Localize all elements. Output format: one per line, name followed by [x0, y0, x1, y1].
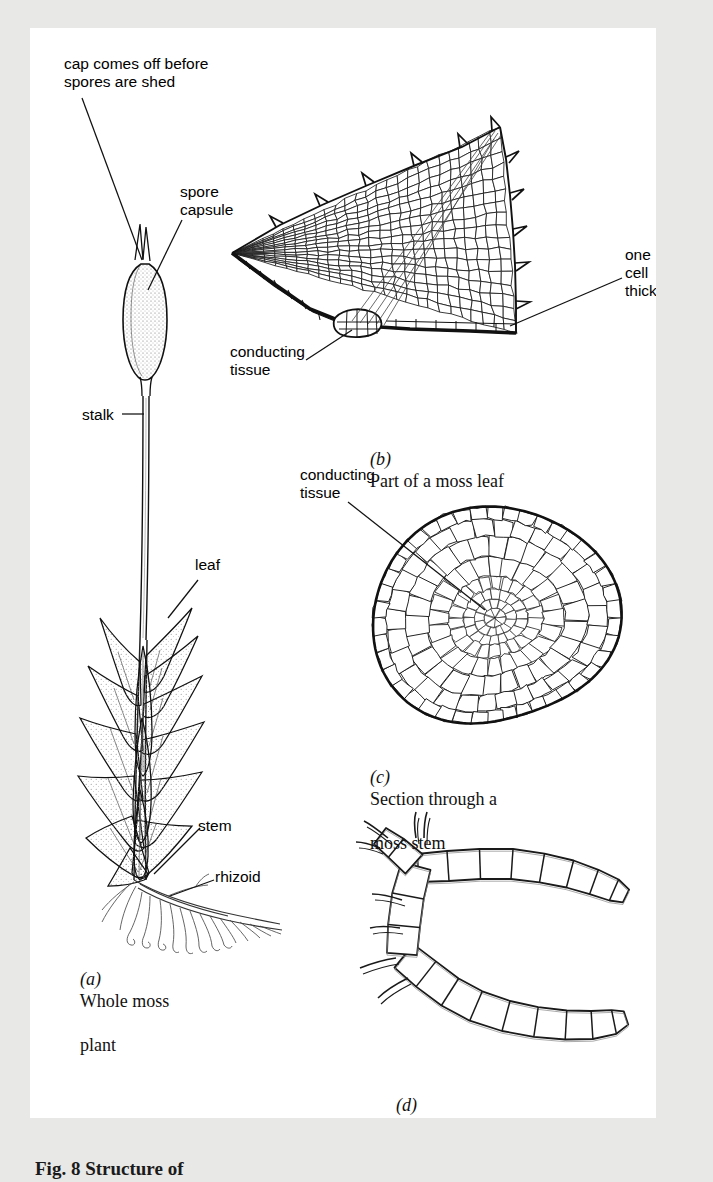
leaf-group: [78, 608, 204, 886]
label-cap-comes-off: cap comes off before spores are shed: [64, 55, 208, 91]
rhizoid-mat: [134, 880, 282, 930]
caption-panel-b: (b) Part of a moss leaf: [352, 426, 504, 514]
caption-panel-d: (d) Rhizoids: [378, 1072, 460, 1118]
caption-panel-c: (c) Section through a moss stem: [352, 744, 497, 876]
caption-text-a2: plant: [80, 1035, 116, 1055]
caption-text-b: Part of a moss leaf: [370, 471, 504, 491]
label-spore-capsule: spore capsule: [180, 183, 233, 219]
caption-marker-a: (a): [80, 969, 101, 989]
caption-marker-c: (c): [370, 767, 390, 787]
label-conducting-tissue-leaf: conducting tissue: [230, 343, 305, 379]
caption-text-a: Whole moss: [80, 991, 170, 1011]
label-one-cell-thick: one cell thick: [625, 246, 656, 300]
caption-marker-b: (b): [370, 449, 391, 469]
label-rhizoid: rhizoid: [215, 868, 261, 886]
caption-text-c2: moss stem: [370, 833, 446, 853]
caption-text-c: Section through a: [370, 789, 497, 809]
label-leaf: leaf: [195, 556, 220, 574]
caption-text-d: Rhizoids: [396, 1117, 460, 1118]
label-stem: stem: [198, 817, 232, 835]
figure-page: cap comes off before spores are shed spo…: [30, 28, 656, 1118]
label-stalk: stalk: [82, 406, 114, 424]
spore-capsule-shape: [123, 264, 167, 380]
figure-caption: Fig. 8 Structure of: [35, 1158, 595, 1182]
caption-marker-d: (d): [396, 1095, 417, 1115]
caption-panel-a: (a) Whole moss plant: [62, 946, 169, 1078]
